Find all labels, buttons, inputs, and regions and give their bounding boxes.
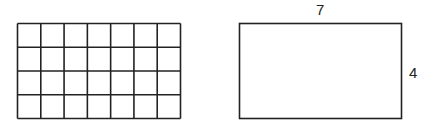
rectangle-width-label: 7 xyxy=(316,2,324,17)
dimension-rectangle xyxy=(240,24,402,119)
unit-square-grid xyxy=(18,24,181,119)
diagram-canvas xyxy=(0,0,429,126)
rectangle-height-label: 4 xyxy=(409,65,417,80)
